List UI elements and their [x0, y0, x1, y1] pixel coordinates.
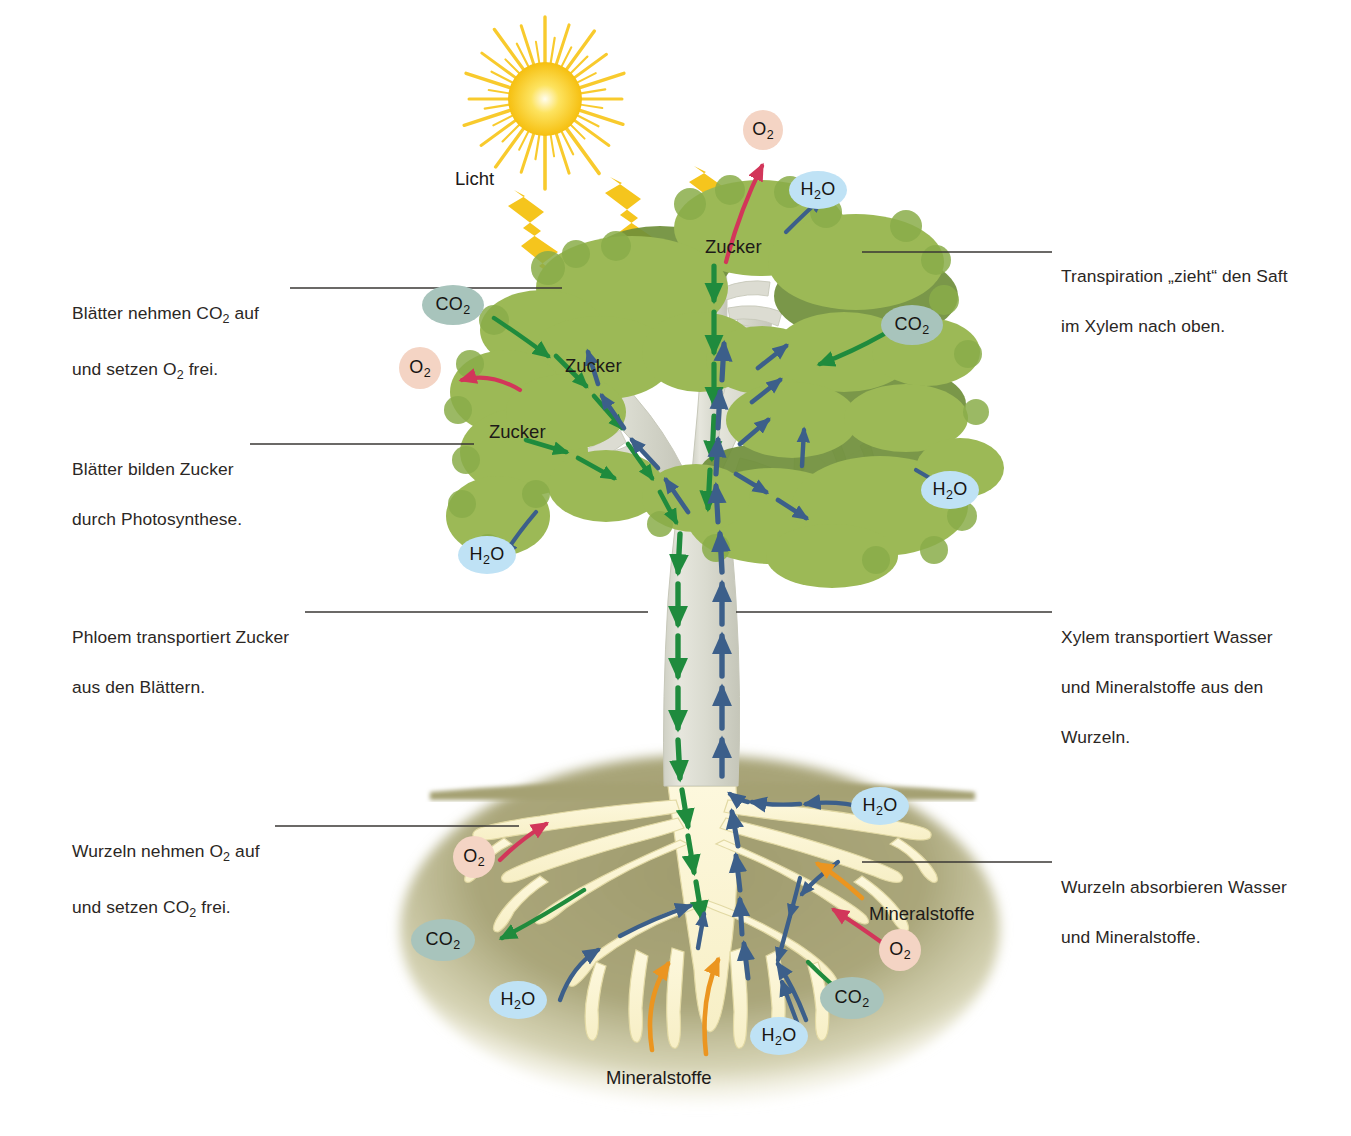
molecule-bubble-h2o-root-bc: H2O [750, 1017, 808, 1055]
molecule-formula: O2 [409, 357, 431, 380]
art-label-mineralstoffe-r: Mineralstoffe [869, 903, 975, 925]
art-label-licht: Licht [455, 168, 494, 190]
molecule-bubble-o2-root-right: O2 [879, 929, 921, 971]
molecule-bubble-co2-root-left: CO2 [411, 919, 475, 961]
art-label-mineralstoffe-b: Mineralstoffe [606, 1067, 712, 1089]
molecule-bubble-co2-left: CO2 [422, 285, 484, 325]
art-label-zucker-mid: Zucker [565, 355, 622, 377]
molecule-bubble-o2-root-left: O2 [453, 836, 495, 878]
molecule-bubble-o2-canopy-left: O2 [399, 347, 441, 389]
callout-line: und Mineralstoffe aus den [1061, 677, 1263, 697]
molecule-bubble-co2-root-right: CO2 [820, 977, 884, 1019]
art-label-zucker-low: Zucker [489, 421, 546, 443]
callout-line: und Mineralstoffe. [1061, 927, 1201, 947]
molecule-formula: H2O [801, 179, 836, 202]
callout-xylem-transport: Xylem transportiert Wasser und Mineralst… [1061, 600, 1351, 750]
callout-line: Wurzeln nehmen O2 auf [72, 841, 260, 861]
callout-line: Blätter nehmen CO2 auf [72, 303, 259, 323]
molecule-bubble-h2o-root-right: H2O [851, 787, 909, 825]
callout-roots-o2-co2: Wurzeln nehmen O2 auf und setzen CO2 fre… [72, 814, 372, 927]
callout-phloem-sugar: Phloem transportiert Zucker aus den Blät… [72, 600, 392, 700]
molecule-formula: H2O [863, 795, 898, 818]
diagram-canvas: Blätter nehmen CO2 auf und setzen O2 fre… [0, 0, 1351, 1136]
molecule-bubble-h2o-canopy-top: H2O [789, 171, 847, 209]
callout-line: und setzen CO2 frei. [72, 897, 231, 917]
callout-line: aus den Blättern. [72, 677, 205, 697]
callout-line: Phloem transportiert Zucker [72, 627, 289, 647]
callout-leaves-sugar: Blätter bilden Zucker durch Photosynthes… [72, 432, 372, 532]
molecule-formula: H2O [933, 479, 968, 502]
sun-icon [464, 17, 624, 189]
molecule-bubble-o2-canopy-top: O2 [743, 110, 783, 150]
callout-line: Xylem transportiert Wasser [1061, 627, 1273, 647]
callout-transpiration: Transpiration „zieht“ den Saft im Xylem … [1061, 239, 1351, 339]
molecule-formula: CO2 [436, 294, 471, 317]
tree-illustration [0, 0, 1351, 1136]
callout-line: durch Photosynthese. [72, 509, 242, 529]
callout-leaves-co2-o2: Blätter nehmen CO2 auf und setzen O2 fre… [72, 276, 372, 389]
molecule-formula: H2O [501, 989, 536, 1012]
molecule-formula: CO2 [895, 314, 930, 337]
callout-line: Wurzeln absorbieren Wasser [1061, 877, 1287, 897]
callout-line: im Xylem nach oben. [1061, 316, 1225, 336]
art-label-zucker-top: Zucker [705, 236, 762, 258]
molecule-formula: CO2 [835, 987, 870, 1010]
molecule-formula: CO2 [426, 929, 461, 952]
callout-line: Wurzeln. [1061, 727, 1130, 747]
molecule-formula: H2O [470, 544, 505, 567]
callout-line: Transpiration „zieht“ den Saft [1061, 266, 1288, 286]
molecule-formula: H2O [762, 1025, 797, 1048]
callout-line: Blätter bilden Zucker [72, 459, 234, 479]
molecule-bubble-h2o-left-mid: H2O [458, 536, 516, 574]
molecule-bubble-h2o-root-bl: H2O [489, 981, 547, 1019]
callout-line: und setzen O2 frei. [72, 359, 218, 379]
molecule-formula: O2 [889, 939, 911, 962]
callout-roots-absorb: Wurzeln absorbieren Wasser und Mineralst… [1061, 850, 1351, 950]
molecule-formula: O2 [463, 846, 485, 869]
molecule-bubble-co2-right: CO2 [881, 305, 943, 345]
molecule-formula: O2 [752, 119, 774, 142]
molecule-bubble-h2o-right-mid: H2O [921, 471, 979, 509]
